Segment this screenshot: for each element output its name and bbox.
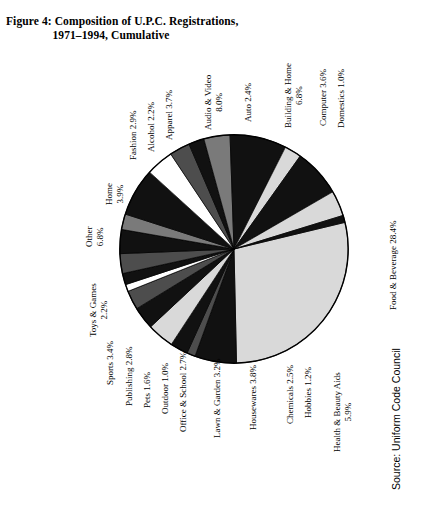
slice-label-toys-and-games-line-1: Toys & Games <box>88 283 99 337</box>
slice-label-home-line-2: 3.9% <box>115 183 126 205</box>
slice-label-housewares-line-1: Housewares 3.8% <box>248 365 259 430</box>
slice-label-apparel-line-1: Apparel 3.7% <box>164 90 175 140</box>
slice-label-other-line-2: 6.8% <box>95 227 106 248</box>
slice-label-pets-line-1: Pets 1.6% <box>142 372 153 408</box>
page-title-line-2: 1971–1994, Cumulative <box>6 28 216 42</box>
slice-label-health-and-beauty-aids-line-1: Health & Beauty Aids <box>332 372 343 452</box>
slice-label-chemicals-line-1: Chemicals 2.5% <box>285 365 296 424</box>
slice-label-other: Other6.8% <box>84 227 105 248</box>
slice-label-building-and-home-line-1: Building & Home <box>283 63 294 128</box>
slice-label-publishing-line-1: Publishing 2.8% <box>124 346 135 406</box>
slice-label-sports: Sports 3.4% <box>105 341 116 385</box>
slice-label-health-and-beauty-aids: Health & Beauty Aids5.9% <box>332 372 353 452</box>
slice-label-sports-line-1: Sports 3.4% <box>105 341 116 385</box>
page-title: Figure 4: Composition of U.P.C. Registra… <box>6 14 216 42</box>
slice-label-toys-and-games-line-2: 2.2% <box>99 283 110 337</box>
slice-label-hobbies: Hobbies 1.2% <box>303 367 314 418</box>
slice-label-building-and-home: Building & Home6.8% <box>283 63 304 128</box>
slice-label-pets: Pets 1.6% <box>142 372 153 408</box>
slice-label-outdoor-line-1: Outdoor 1.0% <box>160 363 171 414</box>
slice-label-chemicals: Chemicals 2.5% <box>285 365 296 424</box>
slice-label-fashion-line-1: Fashion 2.9% <box>128 111 139 161</box>
pie-chart <box>118 133 350 365</box>
slice-label-home: Home3.9% <box>104 183 125 205</box>
slice-label-outdoor: Outdoor 1.0% <box>160 363 171 414</box>
pie-svg <box>118 133 350 365</box>
slice-label-other-line-1: Other <box>84 227 95 248</box>
slice-label-auto: Auto 2.4% <box>243 83 254 122</box>
slice-label-office-and-school: Office & School 2.7% <box>178 352 189 432</box>
slice-label-lawn-and-garden-line-1: Lawn & Garden 3.2% <box>212 359 223 438</box>
slice-label-home-line-1: Home <box>104 183 115 205</box>
slice-label-audio-and-video-line-2: 8.0% <box>214 75 225 130</box>
slice-label-toys-and-games: Toys & Games2.2% <box>88 283 109 337</box>
slice-label-health-and-beauty-aids-line-2: 5.9% <box>343 372 354 452</box>
slice-label-publishing: Publishing 2.8% <box>124 346 135 406</box>
slice-label-housewares: Housewares 3.8% <box>248 365 259 430</box>
slice-label-apparel: Apparel 3.7% <box>164 90 175 140</box>
slice-label-lawn-and-garden: Lawn & Garden 3.2% <box>212 359 223 438</box>
slice-label-audio-and-video: Audio & Video8.0% <box>203 75 224 130</box>
slice-label-computer-line-1: Computer 3.6% <box>318 69 329 126</box>
slice-label-food-and-beverage: Food & Beverage 28.4% <box>388 221 399 310</box>
figure-pie-upc-registrations: Figure 4: Composition of U.P.C. Registra… <box>0 0 424 516</box>
page-title-line-1: Figure 4: Composition of U.P.C. Registra… <box>6 14 216 28</box>
slice-label-office-and-school-line-1: Office & School 2.7% <box>178 352 189 432</box>
slice-label-domestics: Domestics 1.0% <box>336 69 347 128</box>
slice-label-building-and-home-line-2: 6.8% <box>294 63 305 128</box>
slice-label-domestics-line-1: Domestics 1.0% <box>336 69 347 128</box>
slice-label-auto-line-1: Auto 2.4% <box>243 83 254 122</box>
source-note: Source: Uniform Code Council <box>390 348 402 490</box>
slice-label-computer: Computer 3.6% <box>318 69 329 126</box>
slice-label-hobbies-line-1: Hobbies 1.2% <box>303 367 314 418</box>
pie-slice-group <box>120 135 348 363</box>
slice-label-alcohol: Alcohol 2.2% <box>146 102 157 152</box>
slice-label-food-and-beverage-line-1: Food & Beverage 28.4% <box>388 221 399 310</box>
slice-label-fashion: Fashion 2.9% <box>128 111 139 161</box>
slice-label-alcohol-line-1: Alcohol 2.2% <box>146 102 157 152</box>
slice-label-audio-and-video-line-1: Audio & Video <box>203 75 214 130</box>
